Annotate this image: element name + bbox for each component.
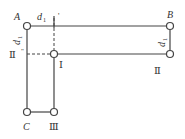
node-II	[167, 51, 174, 58]
node-B	[167, 23, 174, 30]
label-II: Ⅱ	[154, 65, 161, 76]
svg-text:1: 1	[162, 38, 168, 41]
label-II-dp-mark: "	[21, 47, 24, 55]
label-I-prime: '	[58, 12, 60, 21]
svg-text:1: 1	[43, 17, 46, 23]
label-C: C	[23, 121, 30, 132]
node-C	[24, 109, 31, 116]
svg-text:1: 1	[17, 36, 23, 39]
node-A	[24, 23, 31, 30]
label-d1-left: d 1	[11, 36, 23, 45]
label-III: Ⅲ	[49, 121, 59, 132]
label-B: B	[167, 9, 173, 20]
diagram-svg: A B C Ⅲ Ⅰ Ⅱ ' Ⅱ " d 1 d 1 d 1	[0, 0, 185, 139]
node-III	[51, 109, 58, 116]
label-d1-top: d 1	[37, 11, 46, 23]
linkage-diagram: A B C Ⅲ Ⅰ Ⅱ ' Ⅱ " d 1 d 1 d 1	[0, 0, 185, 139]
label-d1-right: d 1	[156, 38, 168, 47]
label-II-double-prime: Ⅱ	[9, 49, 16, 60]
node-I	[51, 51, 58, 58]
label-A: A	[13, 11, 21, 22]
label-I: Ⅰ	[59, 59, 63, 70]
